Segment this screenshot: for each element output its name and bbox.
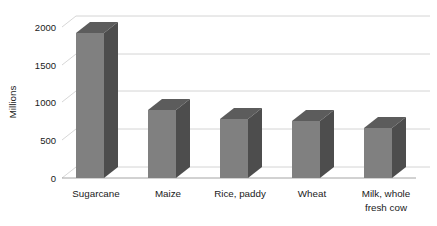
y-tick-1500: 1500 bbox=[35, 60, 56, 71]
y-tick-2000: 2000 bbox=[35, 22, 56, 33]
depth-line-0 bbox=[62, 167, 76, 178]
depth-line-2000 bbox=[62, 16, 76, 27]
bar-side-face bbox=[104, 22, 118, 178]
depth-line-1000 bbox=[62, 91, 76, 102]
y-tick-500: 500 bbox=[40, 135, 56, 146]
chart-canvas: Millions 2000 1500 1000 500 0 Sugarcane … bbox=[0, 0, 437, 226]
bar-milk-whole-fresh-cow bbox=[364, 117, 406, 178]
bar-front-face bbox=[76, 33, 104, 178]
category-label-wheat: Wheat bbox=[298, 188, 327, 199]
bar-wheat bbox=[292, 110, 334, 178]
bar-rice-paddy bbox=[220, 108, 262, 178]
y-tick-0: 0 bbox=[51, 173, 56, 184]
depth-line-500 bbox=[62, 129, 76, 140]
bar-side-face bbox=[320, 110, 334, 178]
category-label-milk-line1: Milk, whole bbox=[362, 188, 411, 199]
y-axis-title: Millions bbox=[7, 86, 18, 119]
bar-front-face bbox=[292, 121, 320, 178]
bar-sugarcane bbox=[76, 22, 118, 178]
category-label-sugarcane: Sugarcane bbox=[72, 188, 120, 199]
category-label-rice-paddy: Rice, paddy bbox=[214, 188, 266, 199]
depth-connectors bbox=[62, 16, 76, 178]
bar-side-face bbox=[176, 99, 190, 178]
y-tick-1000: 1000 bbox=[35, 97, 56, 108]
bar-front-face bbox=[148, 110, 176, 178]
depth-line-1500 bbox=[62, 54, 76, 65]
bar-chart: Millions 2000 1500 1000 500 0 Sugarcane … bbox=[0, 0, 437, 226]
category-label-milk-line2: fresh cow bbox=[365, 202, 408, 213]
bar-front-face bbox=[220, 119, 248, 178]
bar-side-face bbox=[248, 108, 262, 178]
category-label-maize: Maize bbox=[155, 188, 182, 199]
bar-maize bbox=[148, 99, 190, 178]
bar-front-face bbox=[364, 128, 392, 178]
